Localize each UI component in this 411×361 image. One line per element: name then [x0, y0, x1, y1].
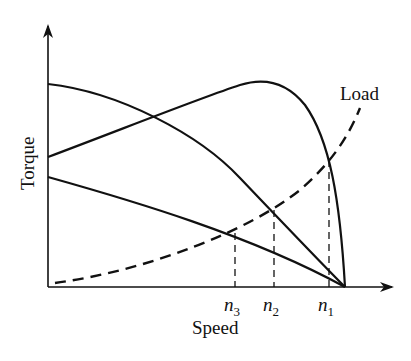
torque-curve-a — [48, 84, 345, 287]
torque-speed-diagram: n3 n2 n1 Speed Torque Load — [0, 0, 411, 361]
tick-label-n2: n2 — [263, 294, 279, 319]
tick-label-n1: n1 — [318, 294, 334, 319]
tick-label-n3: n3 — [224, 294, 240, 319]
torque-curve-c — [48, 177, 345, 287]
y-axis-label: Torque — [17, 136, 38, 190]
load-label: Load — [340, 83, 380, 104]
x-axis-label: Speed — [192, 317, 239, 338]
torque-curve-b — [48, 82, 345, 287]
